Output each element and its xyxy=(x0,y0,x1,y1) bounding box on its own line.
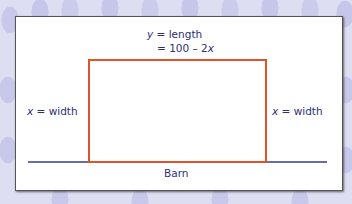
barn-label: Barn xyxy=(164,167,188,179)
left-width-label: x = width xyxy=(27,105,78,117)
fence-rectangle xyxy=(89,60,266,162)
length-formula: = 100 – 2x xyxy=(157,42,214,54)
formula-text: = 100 – 2 xyxy=(157,42,208,54)
width-text: = width xyxy=(33,105,77,117)
width-text: = width xyxy=(278,105,322,117)
diagram-panel: y = length = 100 – 2x x = width x = widt… xyxy=(15,16,343,191)
right-width-label: x = width xyxy=(272,105,323,117)
length-text: = length xyxy=(153,28,202,40)
length-label: y = length xyxy=(147,28,202,40)
x-variable: x xyxy=(208,42,214,54)
